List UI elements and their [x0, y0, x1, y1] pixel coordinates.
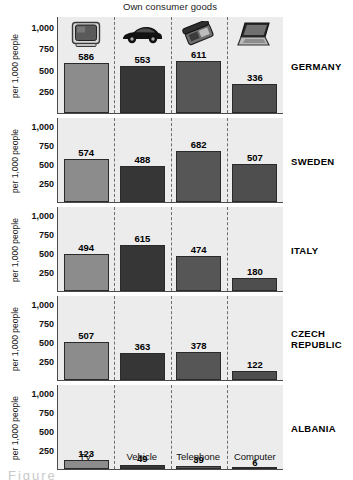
bar — [120, 66, 165, 113]
y-axis-ticks: 1,000750500250 — [16, 17, 54, 114]
bar — [176, 466, 221, 469]
plot-area: 574488682507 — [57, 118, 283, 203]
y-axis-ticks: 1,000750500250 — [16, 118, 54, 203]
bar — [232, 278, 277, 291]
y-tick-label: 250 — [39, 268, 54, 278]
bar — [176, 256, 221, 291]
x-category-label: Vehicle — [114, 451, 171, 462]
y-tick-label: 500 — [39, 427, 54, 437]
panel-stack: per 1,000 people1,0007505002505865536113… — [0, 17, 353, 470]
bar — [64, 342, 109, 380]
y-tick-label: 250 — [39, 87, 54, 97]
bar-slot: 615 — [114, 207, 170, 291]
y-tick-label: 750 — [39, 141, 54, 151]
bar-slot: 507 — [227, 118, 283, 202]
y-tick-label: 1,000 — [31, 122, 54, 132]
bar-slot: 122 — [227, 296, 283, 380]
y-axis-ticks: 1,000750500250 — [16, 207, 54, 292]
y-tick-label: 500 — [39, 160, 54, 170]
country-label: SWEDEN — [291, 155, 335, 166]
bar-value-label: 180 — [227, 266, 283, 277]
bar — [120, 465, 165, 469]
bar-slot: 378 — [171, 296, 227, 380]
figure-caption-stub: Figure — [8, 468, 57, 480]
bar-value-label: 122 — [227, 359, 283, 370]
bar — [232, 164, 277, 202]
plot-area: 494615474180 — [57, 207, 283, 292]
x-category-label: Computer — [227, 451, 284, 462]
bar — [176, 61, 221, 113]
bar-slot: 494 — [58, 207, 114, 291]
bar-slot: 363 — [114, 296, 170, 380]
y-tick-label: 750 — [39, 408, 54, 418]
bar-value-label: 494 — [58, 242, 114, 253]
y-tick-label: 1,000 — [31, 300, 54, 310]
x-category-label: TV — [57, 451, 114, 462]
country-label: ITALY — [291, 244, 318, 255]
chart-title: Own consumer goods — [57, 1, 283, 12]
bar-value-label: 574 — [58, 147, 114, 158]
y-tick-label: 250 — [39, 357, 54, 367]
bar-slot: 611 — [171, 17, 227, 113]
y-tick-label: 1,000 — [31, 389, 54, 399]
bar-value-label: 611 — [171, 49, 227, 60]
country-panel: per 1,000 people1,0007505002505073633781… — [0, 296, 353, 381]
country-panel: per 1,000 people1,0007505002504946154741… — [0, 207, 353, 292]
bar — [232, 84, 277, 113]
y-axis-ticks: 1,000750500250 — [16, 296, 54, 381]
bar-value-label: 363 — [114, 341, 170, 352]
bar — [232, 371, 277, 380]
bar — [64, 254, 109, 291]
y-tick-label: 750 — [39, 319, 54, 329]
bar-value-label: 336 — [227, 72, 283, 83]
bar-slot: 336 — [227, 17, 283, 113]
y-tick-label: 500 — [39, 66, 54, 76]
y-axis-ticks: 1,000750500250 — [16, 385, 54, 470]
country-label: ALBANIA — [291, 422, 336, 433]
chart-figure: Own consumer goods per 1,000 people1,000… — [0, 0, 353, 480]
y-tick-label: 500 — [39, 249, 54, 259]
bar-slot: 474 — [171, 207, 227, 291]
bar-slot: 682 — [171, 118, 227, 202]
bar-slot: 574 — [58, 118, 114, 202]
bar-value-label: 682 — [171, 139, 227, 150]
bar-slot: 586 — [58, 17, 114, 113]
x-category-label: Telephone — [170, 451, 227, 462]
bar-slot: 507 — [58, 296, 114, 380]
bar-value-label: 615 — [114, 233, 170, 244]
bar-value-label: 507 — [227, 152, 283, 163]
bar — [176, 352, 221, 380]
plot-area: 586553611336 — [57, 17, 283, 114]
bar — [120, 245, 165, 291]
bar-slot: 180 — [227, 207, 283, 291]
y-tick-label: 750 — [39, 44, 54, 54]
bar-value-label: 586 — [58, 51, 114, 62]
y-tick-label: 1,000 — [31, 23, 54, 33]
country-panel: per 1,000 people1,0007505002505865536113… — [0, 17, 353, 114]
y-tick-label: 500 — [39, 338, 54, 348]
country-label: GERMANY — [291, 60, 342, 71]
bar-slot: 553 — [114, 17, 170, 113]
bar-slot: 488 — [114, 118, 170, 202]
bar — [64, 159, 109, 202]
y-tick-label: 250 — [39, 446, 54, 456]
country-label: CZECH REPUBLIC — [291, 328, 342, 350]
bar-value-label: 553 — [114, 54, 170, 65]
plot-area: 507363378122 — [57, 296, 283, 381]
x-axis-category-labels: TVVehicleTelephoneComputer — [57, 451, 283, 465]
bar-value-label: 507 — [58, 330, 114, 341]
bar-value-label: 474 — [171, 244, 227, 255]
bar — [120, 353, 165, 380]
bar — [176, 151, 221, 202]
country-panel: per 1,000 people1,0007505002505744886825… — [0, 118, 353, 203]
bar-value-label: 378 — [171, 340, 227, 351]
bar — [64, 63, 109, 113]
y-tick-label: 250 — [39, 179, 54, 189]
y-tick-label: 750 — [39, 230, 54, 240]
bar-value-label: 488 — [114, 154, 170, 165]
y-tick-label: 1,000 — [31, 211, 54, 221]
bar — [120, 166, 165, 202]
